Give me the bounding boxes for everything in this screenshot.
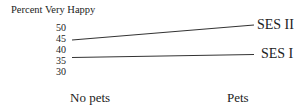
x-category-pets: Pets (227, 90, 249, 106)
x-category-no-pets: No pets (70, 90, 110, 106)
legend-ses-i: SES I (261, 47, 293, 61)
series-line-ses-i (72, 55, 254, 58)
series-line-ses-ii (72, 25, 254, 40)
legend-ses-ii: SES II (257, 18, 294, 32)
